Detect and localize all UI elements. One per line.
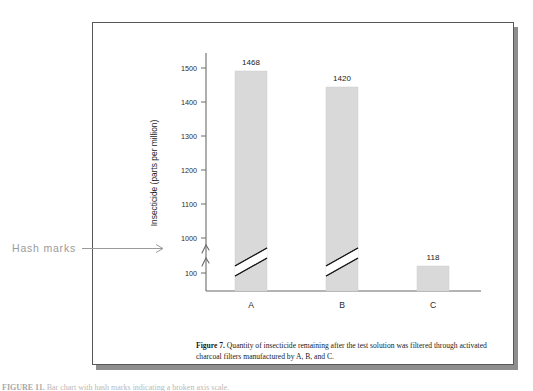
hash-marks-annotation: Hash marks	[12, 242, 170, 254]
y-tick-label-1500: 1500	[181, 64, 197, 73]
figure-caption: Figure 7. Quantity of insecticide remain…	[196, 341, 496, 363]
bar-a-value-label: 1468	[242, 58, 260, 67]
bar-c-value-label: 118	[427, 253, 440, 262]
y-tick-label-1400: 1400	[181, 98, 197, 107]
bottom-cutoff-rest: Bar chart with hash marks indicating a b…	[45, 383, 230, 391]
y-axis-ticks	[201, 68, 206, 273]
y-tick-label-1200: 1200	[181, 166, 197, 175]
y-tick-label-100: 100	[185, 269, 197, 278]
bar-b-value-label: 1420	[333, 74, 351, 83]
hash-marks-annotation-label: Hash marks	[12, 242, 76, 254]
y-axis-title: Insecticide (parts per million)	[149, 120, 159, 227]
y-tick-label-1000: 1000	[181, 234, 197, 243]
bottom-cutoff-text: FIGURE 11. Bar chart with hash marks ind…	[2, 383, 522, 391]
x-category-label-c: C	[430, 300, 436, 310]
bar-group-b[interactable]: 1420	[326, 74, 358, 291]
figure-frame: 1500 1400 1300 1200 1100 1000 100	[92, 22, 514, 365]
bar-group-a[interactable]: 1468	[235, 58, 267, 291]
x-category-label-b: B	[339, 300, 345, 310]
bottom-cutoff-label: FIGURE 11.	[2, 383, 45, 391]
y-tick-label-1300: 1300	[181, 132, 197, 141]
chart-plot-area: 1500 1400 1300 1200 1100 1000 100	[93, 23, 513, 364]
bar-group-c[interactable]: 118	[417, 253, 449, 291]
x-category-label-a: A	[248, 300, 254, 310]
arrow-right-icon	[82, 243, 170, 254]
bar-c[interactable]	[417, 266, 449, 291]
bar-chart-svg: 1500 1400 1300 1200 1100 1000 100	[93, 23, 513, 364]
y-tick-label-1100: 1100	[182, 200, 197, 209]
figure-caption-label: Figure 7.	[196, 341, 225, 350]
figure-caption-text: Quantity of insecticide remaining after …	[196, 341, 487, 361]
